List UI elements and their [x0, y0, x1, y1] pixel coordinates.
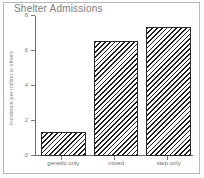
bar-step-only[interactable] [146, 27, 191, 157]
chart-figure: Shelter Admissions Incidence per million… [0, 0, 204, 178]
x-category-label-0: genetic only [47, 160, 79, 166]
y-tick-0: 0 [31, 155, 35, 156]
x-category-label-2: step only [157, 160, 181, 166]
y-tick-2: 4 [31, 85, 35, 86]
plot-area: 0 2 4 6 8 genetic only mixed step only [35, 16, 193, 156]
y-tick-label-3: 6 [25, 47, 28, 53]
y-tick-label-2: 4 [25, 82, 28, 88]
y-tick-1: 2 [31, 120, 35, 121]
y-tick-3: 6 [31, 50, 35, 51]
y-axis-line [35, 16, 36, 156]
y-tick-label-0: 0 [25, 152, 28, 158]
y-tick-4: 8 [31, 15, 35, 16]
bar-mixed[interactable] [94, 41, 139, 157]
y-axis-label: Incidence per million w others [8, 51, 14, 125]
y-tick-label-1: 2 [25, 117, 28, 123]
y-tick-label-4: 8 [25, 12, 28, 18]
bar-genetic-only[interactable] [41, 132, 86, 157]
x-category-label-1: mixed [108, 160, 124, 166]
